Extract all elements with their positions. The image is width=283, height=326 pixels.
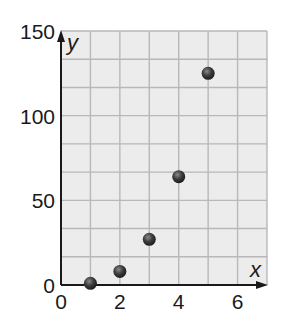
x-tick-label: 6 bbox=[232, 290, 244, 313]
data-point bbox=[84, 277, 97, 290]
x-tick-label: 0 bbox=[55, 290, 67, 313]
x-axis-label: x bbox=[249, 257, 262, 282]
y-tick-label: 150 bbox=[20, 20, 55, 43]
y-tick-label: 50 bbox=[32, 189, 55, 212]
y-tick-label: 0 bbox=[43, 274, 55, 297]
y-axis-label: y bbox=[65, 30, 80, 55]
plot-background bbox=[61, 31, 267, 285]
data-point bbox=[113, 265, 126, 278]
data-point bbox=[143, 233, 156, 246]
plot-area bbox=[61, 31, 267, 285]
data-point bbox=[172, 170, 185, 183]
data-point bbox=[202, 67, 215, 80]
x-tick-label: 4 bbox=[173, 290, 185, 313]
y-tick-label: 100 bbox=[20, 105, 55, 128]
scatter-chart: 0501001500246yx bbox=[0, 0, 283, 326]
x-tick-label: 2 bbox=[114, 290, 126, 313]
